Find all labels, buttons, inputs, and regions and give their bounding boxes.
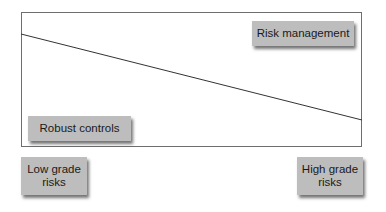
low-grade-line2: risks xyxy=(27,176,81,189)
high-grade-risks-label: High grade risks xyxy=(297,157,363,195)
low-grade-risks-label: Low grade risks xyxy=(21,157,87,195)
risk-management-label: Risk management xyxy=(252,21,354,46)
robust-controls-text: Robust controls xyxy=(40,122,120,135)
risk-management-text: Risk management xyxy=(257,27,350,40)
low-grade-line1: Low grade xyxy=(27,163,81,176)
high-grade-line1: High grade xyxy=(302,163,358,176)
high-grade-line2: risks xyxy=(302,176,358,189)
robust-controls-label: Robust controls xyxy=(28,116,131,141)
